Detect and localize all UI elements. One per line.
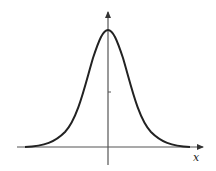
bell-curve-diagram: x — [0, 0, 216, 171]
x-axis-label: x — [193, 151, 200, 164]
